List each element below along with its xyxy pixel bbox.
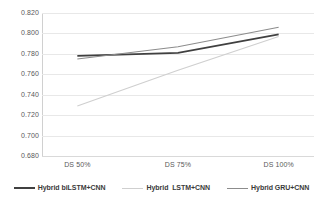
y-axis-tick-labels: 0.8200.8000.7800.7600.7400.7200.7000.680	[0, 13, 39, 156]
legend-label: Hybrid LSTM+CNN	[146, 184, 210, 192]
legend-color-swatch	[122, 188, 143, 189]
legend-item[interactable]: Hybrid GRU+CNN	[227, 184, 309, 192]
legend-item[interactable]: Hybrid biLSTM+CNN	[14, 184, 106, 192]
chart-legend: Hybrid biLSTM+CNNHybrid LSTM+CNNHybrid G…	[0, 181, 323, 195]
y-axis-tick-label: 0.760	[3, 70, 39, 77]
legend-color-swatch	[14, 187, 35, 189]
line-chart: 0.8200.8000.7800.7600.7400.7200.7000.680…	[0, 0, 323, 202]
y-axis-tick-label: 0.800	[3, 29, 39, 36]
y-axis-tick-label: 0.740	[3, 91, 39, 98]
y-axis-tick-label: 0.720	[3, 111, 39, 118]
y-axis-tick-label: 0.700	[3, 132, 39, 139]
plot-area	[42, 13, 314, 156]
x-axis-tick-labels: DS 50%DS 75%DS 100%	[42, 161, 314, 173]
series-lines	[42, 13, 314, 156]
x-axis-tick-label: DS 50%	[64, 161, 90, 169]
series-line	[77, 34, 278, 55]
legend-label: Hybrid GRU+CNN	[251, 184, 309, 192]
x-axis-tick-label: DS 100%	[264, 161, 294, 169]
y-axis-tick-label: 0.680	[3, 152, 39, 159]
x-axis-tick-label: DS 75%	[165, 161, 191, 169]
gridline	[42, 156, 314, 157]
legend-item[interactable]: Hybrid LSTM+CNN	[122, 184, 210, 192]
y-axis-tick-label: 0.820	[3, 9, 39, 16]
legend-label: Hybrid biLSTM+CNN	[38, 184, 106, 192]
y-axis-tick-label: 0.780	[3, 50, 39, 57]
legend-color-swatch	[227, 188, 248, 189]
